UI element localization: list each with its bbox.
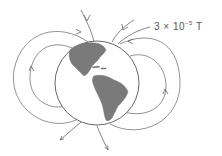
field-strength-label: 3 × 10−5 T — [154, 21, 203, 32]
field-exponent: −5 — [185, 20, 193, 26]
field-line-bottom-1 — [60, 122, 81, 140]
field-unit: T — [196, 21, 203, 32]
field-line-top-2 — [112, 20, 134, 42]
field-line-top-1 — [81, 10, 94, 42]
field-line-bottom-2 — [97, 126, 108, 150]
arrow-left-inner — [29, 66, 34, 71]
field-coefficient: 3 — [154, 21, 160, 32]
arrow-left-outer-top — [76, 29, 81, 34]
times-symbol: × — [163, 21, 169, 32]
field-base: 10 — [173, 21, 185, 32]
